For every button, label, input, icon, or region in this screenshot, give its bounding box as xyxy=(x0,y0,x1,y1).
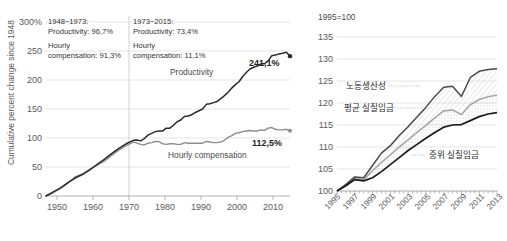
y-tick-0: 0 xyxy=(37,191,42,201)
series-hourly-compensation-endpoint xyxy=(288,129,292,133)
r-x-tick-2003: 2003 xyxy=(395,192,415,212)
r-y-tick-125: 125 xyxy=(318,76,333,86)
r-y-tick-130: 130 xyxy=(318,54,333,64)
r-x-tick-2011: 2011 xyxy=(468,192,487,211)
annotation-period-1-line-1: Productivity: 96,7% xyxy=(48,27,113,36)
series-label-median-real-wage: 중위 실질임금 xyxy=(429,149,479,160)
left-chart-svg: 300% 250 200 150 100 50 0 Cumulative per… xyxy=(0,0,300,241)
r-x-tick-1997: 1997 xyxy=(341,192,361,212)
right-y-tick-labels: 135 130 125 120 115 110 105 100 xyxy=(318,32,333,196)
annotation-period-2: 1973~2015: Productivity: 73,4% Hourly co… xyxy=(133,17,206,60)
annotation-period-2-line-2: Hourly xyxy=(133,41,155,50)
r-x-tick-2009: 2009 xyxy=(449,192,469,212)
r-x-tick-2013: 2013 xyxy=(485,192,505,212)
annotation-period-1: 1948~1973: Productivity: 96,7% Hourly co… xyxy=(48,17,121,60)
annotation-period-2-line-3: compensation: 11,1% xyxy=(133,51,206,60)
value-label-hourly-compensation: 112,5% xyxy=(252,138,282,148)
r-x-tick-2001: 2001 xyxy=(377,192,397,212)
right-chart-unit-note: 1995=100 xyxy=(318,12,356,22)
r-y-tick-120: 120 xyxy=(318,98,333,108)
x-tick-1990: 1990 xyxy=(191,202,211,212)
r-y-tick-100: 100 xyxy=(318,186,333,196)
value-label-productivity: 241,1% xyxy=(249,58,280,68)
annotation-period-1-line-3: compensation: 91,3% xyxy=(48,51,121,60)
left-gridlines xyxy=(46,22,290,196)
y-tick-250: 250 xyxy=(27,46,42,56)
y-tick-300: 300% xyxy=(19,17,42,27)
left-y-axis-title: Cumulative percent change since 1948 xyxy=(6,20,16,165)
y-tick-50: 50 xyxy=(32,162,42,172)
right-x-tick-labels: 1995 1997 1999 2001 2003 2005 2007 2009 … xyxy=(323,192,505,212)
y-tick-200: 200 xyxy=(27,75,42,85)
series-label-hourly-compensation: Hourly compensation xyxy=(168,150,247,160)
r-x-tick-2007: 2007 xyxy=(431,192,451,212)
annotation-period-1-line-2: Hourly xyxy=(48,41,70,50)
x-tick-1980: 1980 xyxy=(155,202,175,212)
annotation-period-2-line-0: 1973~2015: xyxy=(133,17,173,26)
left-x-ticks: 1950 1960 1970 1980 1990 2000 2010 xyxy=(47,196,283,212)
r-x-tick-1999: 1999 xyxy=(359,192,379,212)
y-tick-150: 150 xyxy=(27,104,42,114)
r-y-tick-110: 110 xyxy=(319,142,333,152)
r-y-tick-115: 115 xyxy=(319,120,333,130)
r-y-tick-105: 105 xyxy=(318,164,333,174)
right-chart-svg: 1995=100 135 130 125 120 115 110 10 xyxy=(300,0,507,241)
x-tick-2000: 2000 xyxy=(227,202,247,212)
series-label-labor-productivity: 노동생산성 xyxy=(346,81,386,91)
series-productivity-line xyxy=(46,52,290,196)
r-y-tick-135: 135 xyxy=(318,32,333,42)
right-chart-panel: 1995=100 135 130 125 120 115 110 10 xyxy=(300,0,507,241)
two-panel-chart-figure: 300% 250 200 150 100 50 0 Cumulative per… xyxy=(0,0,507,241)
left-y-tick-labels: 300% 250 200 150 100 50 0 xyxy=(19,17,42,201)
x-tick-1960: 1960 xyxy=(83,202,103,212)
r-x-tick-2005: 2005 xyxy=(413,192,433,212)
left-chart-panel: 300% 250 200 150 100 50 0 Cumulative per… xyxy=(0,0,300,241)
right-x-ticks xyxy=(337,191,497,195)
series-label-average-real-wage: 평균 실질임금 xyxy=(344,102,394,113)
series-label-productivity: Productivity xyxy=(170,67,214,77)
annotation-period-2-line-1: Productivity: 73,4% xyxy=(133,27,198,36)
annotation-period-1-line-0: 1948~1973: xyxy=(48,17,88,26)
x-tick-1950: 1950 xyxy=(47,202,67,212)
x-tick-2010: 2010 xyxy=(263,202,283,212)
series-productivity-endpoint xyxy=(288,54,292,58)
x-tick-1970: 1970 xyxy=(119,202,139,212)
y-tick-100: 100 xyxy=(27,133,42,143)
